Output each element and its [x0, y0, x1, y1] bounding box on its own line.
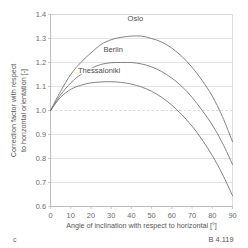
x-tick-label-60: 60 [168, 211, 176, 220]
x-tick-label-40: 40 [127, 211, 135, 220]
x-tick-label-20: 20 [87, 211, 95, 220]
x-tick-label-90: 90 [228, 211, 236, 220]
curve-berlin [51, 62, 233, 164]
curve-thessaloniki [51, 82, 233, 196]
panel-letter: c [13, 236, 17, 243]
curve-oslo [51, 36, 233, 142]
y-tick-label-1.0: 1.0 [36, 106, 46, 115]
correction-factor-line-chart: 0.60.70.80.91.01.11.21.31.40102030405060… [0, 0, 248, 248]
y-axis-title-line1: Correction factor with respect [9, 64, 18, 157]
series-label-oslo: Oslo [128, 14, 144, 23]
y-tick-label-0.9: 0.9 [36, 130, 46, 139]
x-tick-label-10: 10 [67, 211, 75, 220]
figure-container: 0.60.70.80.91.01.11.21.31.40102030405060… [0, 0, 248, 248]
y-tick-label-0.8: 0.8 [36, 154, 46, 163]
figure-caption: B 4.119 [209, 235, 234, 244]
y-tick-label-1.2: 1.2 [36, 58, 46, 67]
series-label-berlin: Berlin [103, 45, 122, 54]
x-tick-label-0: 0 [48, 211, 52, 220]
series-label-thessaloniki: Thessaloniki [78, 66, 121, 75]
y-tick-label-1.4: 1.4 [36, 10, 46, 19]
y-tick-label-0.7: 0.7 [36, 178, 46, 187]
x-tick-label-50: 50 [147, 211, 155, 220]
y-tick-label-1.3: 1.3 [36, 34, 46, 43]
x-tick-label-70: 70 [188, 211, 196, 220]
plot-frame [51, 15, 233, 207]
y-tick-label-0.6: 0.6 [36, 202, 46, 211]
x-tick-label-30: 30 [107, 211, 115, 220]
y-tick-label-1.1: 1.1 [36, 82, 46, 91]
x-tick-label-80: 80 [208, 211, 216, 220]
x-axis-title: Angle of inclination with respect to hor… [66, 221, 217, 230]
y-axis-title-line2: to horizontal orientation [-] [19, 69, 28, 152]
